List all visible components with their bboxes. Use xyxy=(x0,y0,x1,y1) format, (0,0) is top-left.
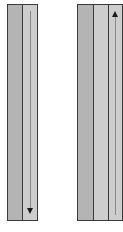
right-column-strip-3 xyxy=(108,5,122,220)
down-arrow-shaft xyxy=(30,11,31,211)
right-column-strip-1 xyxy=(78,5,93,220)
right-column xyxy=(77,4,123,221)
down-arrow-icon xyxy=(27,208,33,214)
left-column-strip-2 xyxy=(22,5,37,220)
left-column xyxy=(7,4,38,221)
right-column-strip-2 xyxy=(93,5,108,220)
left-column-strip-1 xyxy=(8,5,22,220)
up-arrow-shaft xyxy=(115,17,116,215)
